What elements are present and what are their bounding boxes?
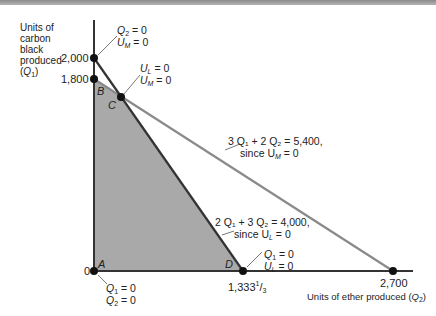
vertex-label-D: D (225, 258, 233, 270)
point-D (239, 267, 247, 275)
point-C (117, 93, 125, 101)
vertex-label-A: A (98, 258, 105, 270)
chart-canvas (0, 0, 436, 316)
y-tick-0: 0 (84, 266, 90, 277)
equation-um-text: 3 Q₁ + 2 Q₂ = 5,400, (228, 135, 323, 147)
leader-D (247, 252, 262, 267)
x-axis-label: Units of ether produced (Q2) (307, 291, 426, 302)
x-tick-1333: 1,3331/3 (228, 278, 266, 293)
y-tick-2000: 2,000 (61, 53, 89, 64)
point-2000 (90, 54, 98, 62)
equation-ul-text: 2 Q₁ + 3 Q₂ = 4,000, (215, 216, 310, 228)
leader-2000 (98, 36, 117, 55)
y-label-line: carbon (20, 33, 62, 44)
vertex-label-C: C (108, 99, 116, 111)
equation-um: 3 Q₁ + 2 Q₂ = 5,400, since UM = 0 (228, 135, 323, 159)
annotation-C: UL = 0 UM = 0 (140, 62, 171, 86)
annotation-2000: Q2 = 0 UM = 0 (117, 24, 148, 48)
y-label-line: produced (20, 55, 62, 66)
vertex-label-B: B (97, 85, 104, 97)
point-B (90, 75, 98, 83)
leader-C (124, 75, 140, 94)
point-A (90, 267, 98, 275)
x-tick-2700: 2,700 (380, 278, 408, 289)
y-label-line: black (20, 44, 62, 55)
y-label-line: Units of (20, 22, 62, 33)
y-axis-label: Units of carbon black produced (Q1) (20, 22, 62, 77)
y-label-var: (Q1) (20, 66, 62, 77)
equation-ul: 2 Q₁ + 3 Q₂ = 4,000, since UL = 0 (215, 216, 310, 240)
feasible-region (94, 79, 243, 271)
point-2700 (389, 267, 397, 275)
annotation-A: Q1 = 0 Q2 = 0 (106, 282, 136, 306)
y-tick-1800: 1,800 (61, 74, 89, 85)
annotation-D: Q1 = 0 UL = 0 (264, 248, 294, 272)
